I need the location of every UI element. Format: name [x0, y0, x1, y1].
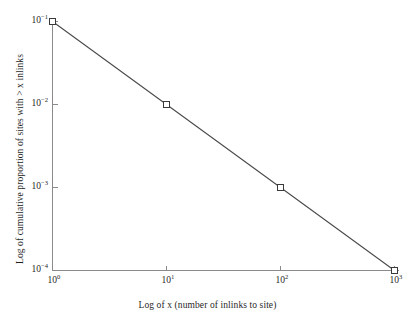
- data-point-marker: [50, 19, 56, 25]
- x-tick-label-3-exponent: 3: [399, 273, 402, 280]
- data-point-marker: [164, 102, 170, 108]
- y-axis-ticks: [53, 22, 58, 271]
- data-point-marker: [278, 185, 284, 191]
- x-tick-label-2-base: 10: [276, 275, 286, 285]
- y-tick-label-2-exponent: −3: [41, 179, 48, 186]
- x-tick-label-0-base: 10: [48, 275, 58, 285]
- x-axis-ticks: [53, 266, 395, 271]
- x-tick-label-3: 103: [390, 276, 403, 286]
- y-tick-label-3-base: 10: [31, 264, 41, 274]
- y-tick-label-2-base: 10: [31, 181, 41, 191]
- x-tick-label-2: 102: [276, 276, 289, 286]
- x-tick-label-0: 100: [48, 276, 61, 286]
- plot-canvas: [0, 0, 415, 314]
- y-tick-label-0: 10−1: [20, 16, 48, 26]
- y-axis-title: Log of cumulative proportion of sites wi…: [15, 54, 25, 264]
- x-tick-label-1-exponent: 1: [171, 273, 174, 280]
- y-tick-label-3: 10−4: [20, 265, 48, 275]
- data-point-marker: [392, 268, 398, 274]
- x-tick-label-1-base: 10: [162, 275, 172, 285]
- x-tick-label-3-base: 10: [390, 275, 400, 285]
- x-axis-title: Log of x (number of inlinks to site): [0, 300, 415, 310]
- axes-group: [53, 18, 400, 271]
- y-tick-label-0-exponent: −1: [41, 13, 48, 20]
- y-tick-label-0-base: 10: [31, 15, 41, 25]
- y-tick-label-1-exponent: −2: [41, 96, 48, 103]
- x-tick-label-1: 101: [162, 276, 175, 286]
- x-tick-label-0-exponent: 0: [57, 273, 60, 280]
- y-tick-label-3-exponent: −4: [41, 262, 48, 269]
- chart-figure: 10−1 10−2 10−3 10−4 100 101 102 103 Log …: [0, 0, 415, 314]
- data-series-line: [53, 22, 395, 271]
- y-tick-label-1-base: 10: [31, 98, 41, 108]
- x-tick-label-2-exponent: 2: [285, 273, 288, 280]
